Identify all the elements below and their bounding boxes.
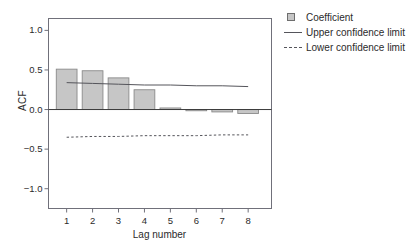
coefficient-swatch-icon (282, 11, 306, 23)
legend-label-upper-confidence-limit: Upper confidence limit (306, 27, 405, 38)
solid-line-swatch-icon (282, 26, 306, 38)
bar (238, 110, 259, 114)
bar (56, 69, 77, 109)
acf-chart: ACF Lag number 1.00.50.0−0.5−1.0 1234567… (0, 0, 406, 250)
bar (108, 78, 129, 110)
lower-confidence-limit-line (67, 135, 249, 137)
dashed-line-swatch-icon (282, 41, 306, 53)
legend-label-coefficient: Coefficient (306, 12, 353, 23)
chart-legend: Coefficient Upper confidence limit Lower… (282, 10, 406, 55)
legend-label-lower-confidence-limit: Lower confidence limit (306, 42, 405, 53)
legend-item-lower-confidence-limit: Lower confidence limit (282, 40, 406, 54)
bar (134, 90, 155, 110)
legend-item-coefficient: Coefficient (282, 10, 406, 24)
legend-item-upper-confidence-limit: Upper confidence limit (282, 25, 406, 39)
bar (82, 71, 103, 110)
